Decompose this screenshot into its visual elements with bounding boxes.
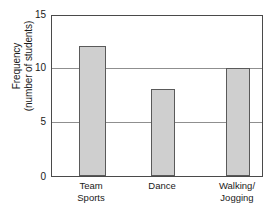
- y-axis-tick-labels: 15 10 5 0: [26, 0, 46, 205]
- bar-dance[interactable]: [151, 89, 175, 176]
- x-tick-label-walking-jogging: Walking/ Jogging: [219, 180, 255, 203]
- y-tick-label-15: 15: [26, 10, 46, 20]
- bar-walking-jogging[interactable]: [226, 68, 250, 176]
- y-tick-label-10: 10: [26, 63, 46, 73]
- x-tick-label-team-sports-line-1: Team: [77, 180, 104, 192]
- bars-layer: [52, 16, 262, 176]
- bar-chart: Frequency (number of students) 15 10 5 0…: [0, 0, 270, 205]
- y-axis-title-line-1: Frequency: [11, 43, 23, 89]
- x-tick-label-dance: Dance: [148, 180, 175, 192]
- x-tick-label-walking-jogging-line-2: Jogging: [219, 192, 255, 204]
- bar-team-sports[interactable]: [79, 46, 106, 176]
- x-tick-label-walking-jogging-line-1: Walking/: [219, 180, 255, 192]
- y-tick-label-5: 5: [26, 117, 46, 127]
- x-tick-label-team-sports: Team Sports: [77, 180, 104, 203]
- y-tick-label-0: 0: [26, 172, 46, 182]
- x-axis-tick-labels: Team Sports Dance Walking/ Jogging: [51, 180, 263, 205]
- plot-area: [51, 15, 263, 177]
- x-tick-label-dance-line-1: Dance: [148, 180, 175, 192]
- x-tick-label-team-sports-line-2: Sports: [77, 192, 104, 204]
